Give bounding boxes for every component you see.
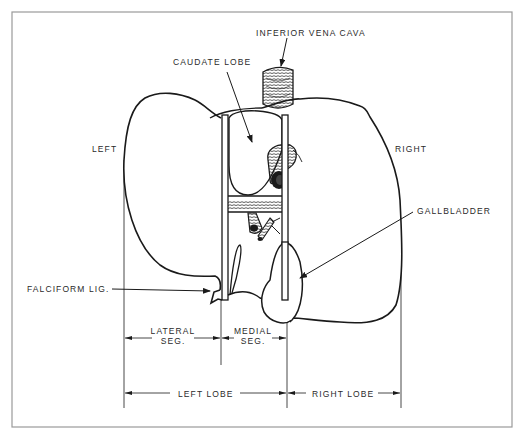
inferior-vena-cava [263,67,293,108]
ligamentum-teres-loop [230,245,241,295]
label-lateral-seg-line1: LATERAL [148,326,198,336]
label-right-lobe: RIGHT LOBE [312,389,374,399]
label-medial-seg-line2: SEG. [228,336,278,346]
left-fissure-bar [222,115,228,300]
label-lateral-seg-line2: SEG. [148,336,198,346]
label-right: RIGHT [395,144,427,154]
diagram-frame [0,0,518,434]
figure-border [12,12,512,427]
label-falciform-lig: FALCIFORM LIG. [27,284,109,294]
portal-vessels [248,213,280,241]
label-gallbladder: GALLBLADDER [417,206,491,216]
falciform-pointer-arrow [112,289,210,291]
ivc-pointer-arrow [281,38,287,66]
falciform-ligament-shape [211,290,222,303]
label-inferior-vena-cava: INFERIOR VENA CAVA [256,28,366,38]
label-medial-seg-line1: MEDIAL [228,326,278,336]
label-medial-seg: MEDIAL SEG. [228,326,278,346]
liver-diagram [0,0,518,434]
left-lobe-shape [124,93,221,290]
label-left: LEFT [92,144,117,154]
label-left-lobe: LEFT LOBE [178,389,234,399]
label-caudate-lobe: CAUDATE LOBE [173,57,251,67]
label-lateral-seg: LATERAL SEG. [148,326,198,346]
